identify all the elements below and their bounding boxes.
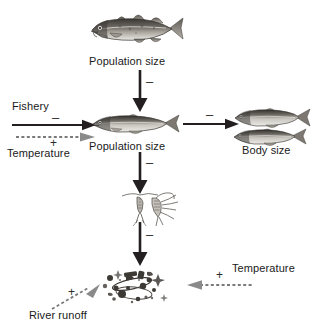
edge-runoff-to-phytoplankton xyxy=(48,280,108,312)
body-size-label: Body size xyxy=(242,144,291,156)
herring-pair-icon xyxy=(232,104,312,148)
river-runoff-label: River runoff xyxy=(29,309,87,321)
sign-temperature-lower: + xyxy=(216,269,223,281)
temperature-upper-label: Temperature xyxy=(7,147,70,159)
sign-herring-to-zooplankton: – xyxy=(146,156,153,169)
food-web-diagram: Population size – Fishery – + Temperatur… xyxy=(0,0,314,332)
sign-zooplankton-to-phytoplankton: – xyxy=(146,228,153,241)
sign-cod-to-herring: – xyxy=(146,75,153,88)
temperature-lower-label: Temperature xyxy=(232,262,295,274)
fishery-label: Fishery xyxy=(12,100,49,112)
cod-fish-icon xyxy=(86,6,186,54)
cod-population-size-label: Population size xyxy=(89,55,165,67)
herring-population-size-label: Population size xyxy=(89,140,165,152)
phytoplankton-icon xyxy=(102,266,174,310)
sign-fishery: – xyxy=(52,111,59,124)
sign-river-runoff: + xyxy=(68,286,75,298)
herring-fish-icon xyxy=(89,109,181,139)
sign-herring-to-bodysize: – xyxy=(206,108,213,121)
